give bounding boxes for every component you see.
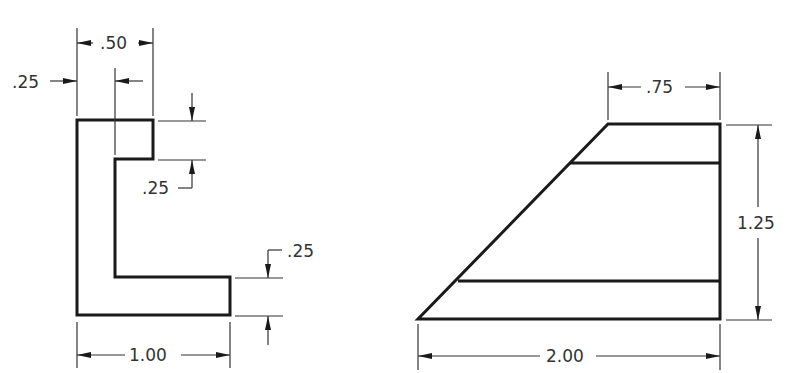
left-view: .50 .25 .25 .25 1.00 <box>12 28 314 368</box>
dim-top-width-label: .50 <box>100 33 127 53</box>
technical-drawing: .50 .25 .25 .25 1.00 <box>0 0 792 373</box>
dim-inner-offset-label: .25 <box>12 72 39 92</box>
dim-overall-width-label: 1.00 <box>129 345 167 365</box>
dim-height-label: 1.25 <box>737 213 775 233</box>
right-view: .75 1.25 2.00 <box>418 72 775 370</box>
trapezoid-outline <box>418 124 720 319</box>
dim-flange-height-label: .25 <box>287 241 314 261</box>
dim-notch-height-label: .25 <box>142 178 169 198</box>
l-shape-outline <box>77 120 230 315</box>
dim-top-width-right-label: .75 <box>646 77 673 97</box>
dim-overall-width-right-label: 2.00 <box>546 346 584 366</box>
